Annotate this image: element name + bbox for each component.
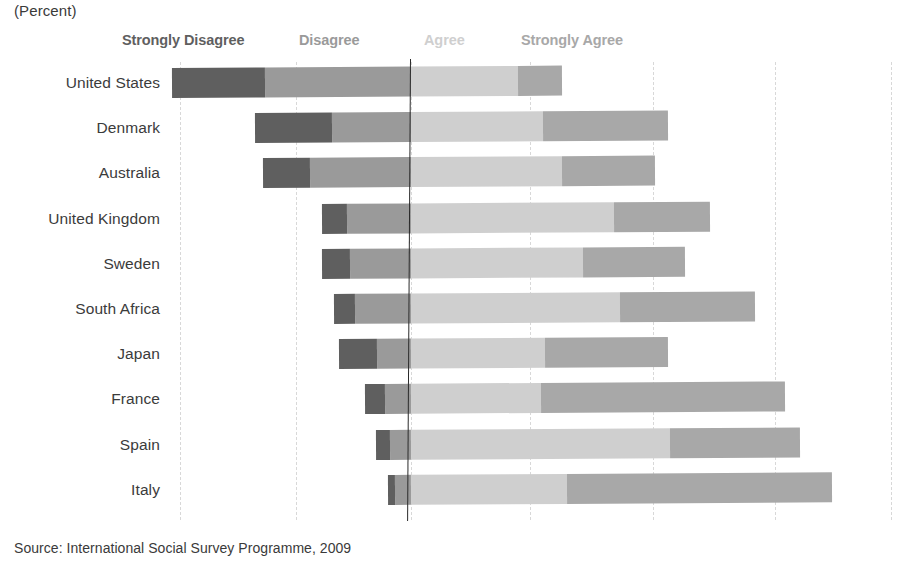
bar-segment-strongly-disagree[interactable]	[255, 113, 332, 143]
bar-segment-disagree[interactable]	[395, 475, 411, 505]
bar-row: France	[0, 378, 905, 419]
row-label-france: France	[0, 378, 160, 419]
bar-row: Spain	[0, 424, 905, 465]
bar-segment-strongly-disagree[interactable]	[376, 430, 390, 460]
row-label-south-africa: South Africa	[0, 288, 160, 329]
bar-segment-strongly-agree[interactable]	[541, 382, 785, 413]
bar-segment-strongly-disagree[interactable]	[365, 384, 385, 414]
bar-segment-strongly-agree[interactable]	[545, 337, 668, 368]
bar-segment-agree[interactable]	[411, 428, 670, 460]
bar-segment-agree[interactable]	[411, 111, 543, 142]
bar-segment-strongly-agree[interactable]	[543, 111, 668, 142]
bar-row: United States	[0, 62, 905, 103]
bar-row: South Africa	[0, 288, 905, 329]
bar-segment-agree[interactable]	[411, 292, 620, 323]
bar-segment-strongly-agree[interactable]	[620, 291, 755, 322]
legend-item-strongly-agree: Strongly Agree	[521, 32, 623, 48]
stacked-bar[interactable]	[376, 427, 800, 460]
row-label-spain: Spain	[0, 424, 160, 465]
stacked-bar[interactable]	[322, 247, 685, 279]
legend-item-strongly-disagree: Strongly Disagree	[122, 32, 244, 48]
bar-segment-agree[interactable]	[411, 247, 583, 278]
legend-item-agree: Agree	[424, 32, 465, 48]
bar-segment-strongly-disagree[interactable]	[339, 339, 377, 369]
bar-segment-strongly-agree[interactable]	[567, 472, 832, 504]
bar-row: Sweden	[0, 243, 905, 284]
bar-segment-strongly-disagree[interactable]	[334, 294, 355, 324]
bar-segment-disagree[interactable]	[355, 294, 411, 324]
stacked-bar[interactable]	[172, 66, 562, 98]
bar-segment-agree[interactable]	[411, 157, 562, 188]
bar-segment-disagree[interactable]	[350, 248, 411, 278]
bar-segment-strongly-agree[interactable]	[583, 247, 685, 278]
legend-item-disagree: Disagree	[299, 32, 359, 48]
bar-segment-agree[interactable]	[411, 202, 614, 233]
bar-row: Italy	[0, 469, 905, 510]
chart-root: (Percent) Strongly Disagree Disagree Agr…	[0, 0, 905, 570]
bar-segment-strongly-agree[interactable]	[562, 156, 655, 187]
row-label-sweden: Sweden	[0, 243, 160, 284]
bar-segment-strongly-agree[interactable]	[518, 66, 562, 96]
bar-segment-strongly-disagree[interactable]	[263, 158, 310, 188]
bar-segment-agree[interactable]	[411, 338, 545, 369]
bar-segment-strongly-agree[interactable]	[670, 427, 800, 458]
bar-row: Japan	[0, 333, 905, 374]
row-label-united-states: United States	[0, 62, 160, 103]
bar-segment-disagree[interactable]	[377, 339, 411, 369]
source-note: Source: International Social Survey Prog…	[14, 540, 351, 556]
stacked-bar[interactable]	[388, 472, 832, 505]
row-label-denmark: Denmark	[0, 107, 160, 148]
chart-legend: Strongly Disagree Disagree Agree Strongl…	[0, 32, 905, 54]
stacked-bar[interactable]	[255, 111, 668, 144]
row-label-japan: Japan	[0, 333, 160, 374]
unit-label: (Percent)	[14, 2, 77, 19]
bar-segment-disagree[interactable]	[310, 157, 411, 188]
bar-segment-strongly-disagree[interactable]	[322, 203, 347, 233]
bar-segment-agree[interactable]	[411, 474, 567, 505]
plot-area: United StatesDenmarkAustraliaUnited King…	[0, 62, 905, 520]
stacked-bar[interactable]	[334, 291, 755, 324]
bar-segment-disagree[interactable]	[332, 112, 411, 142]
bar-segment-disagree[interactable]	[265, 67, 411, 98]
stacked-bar[interactable]	[263, 156, 655, 188]
bar-row: Australia	[0, 152, 905, 193]
bar-segment-strongly-disagree[interactable]	[322, 249, 350, 279]
row-label-united-kingdom: United Kingdom	[0, 198, 160, 239]
stacked-bar[interactable]	[365, 382, 785, 415]
bar-segment-strongly-disagree[interactable]	[172, 67, 265, 98]
bar-row: Denmark	[0, 107, 905, 148]
bar-segment-agree[interactable]	[411, 383, 541, 414]
bar-segment-agree[interactable]	[411, 66, 518, 97]
stacked-bar[interactable]	[339, 337, 668, 369]
bar-row: United Kingdom	[0, 198, 905, 239]
bar-segment-disagree[interactable]	[347, 203, 411, 233]
bar-segment-strongly-agree[interactable]	[614, 201, 710, 232]
stacked-bar[interactable]	[322, 201, 710, 233]
row-label-italy: Italy	[0, 469, 160, 510]
row-label-australia: Australia	[0, 152, 160, 193]
